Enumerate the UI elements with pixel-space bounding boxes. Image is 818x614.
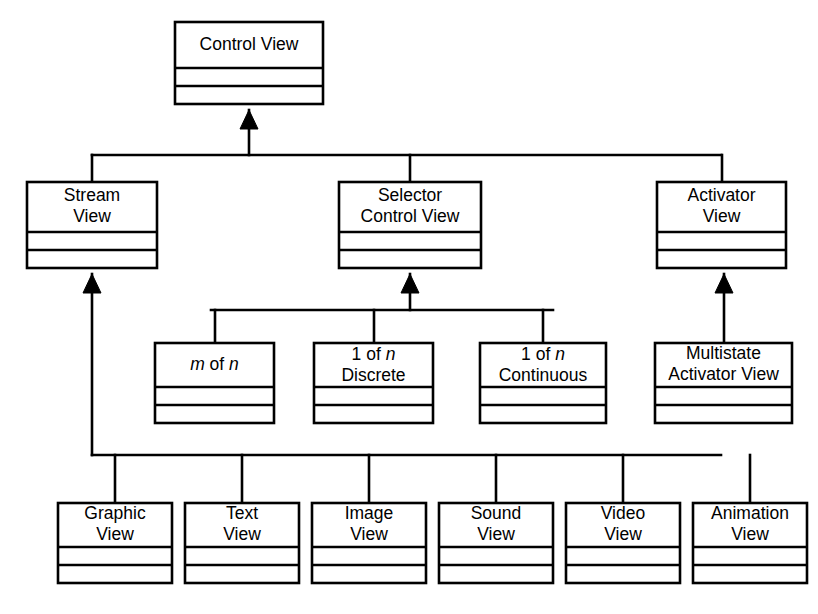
class-name-line: Image — [345, 503, 394, 523]
class-name-line: View — [731, 524, 769, 544]
class-name-line: 1 of n — [521, 343, 565, 363]
node-layer: Control ViewStreamViewSelectorControl Vi… — [27, 22, 807, 583]
class-name-line: View — [350, 524, 388, 544]
class-name-line: Graphic — [84, 503, 146, 523]
class-box-animation-view[interactable]: AnimationView — [693, 503, 807, 583]
class-name-line: Animation — [711, 503, 789, 523]
diagram-canvas: Control ViewStreamViewSelectorControl Vi… — [0, 0, 818, 614]
class-box-sound-view[interactable]: SoundView — [439, 503, 553, 583]
class-box-multistate-activator-view[interactable]: MultistateActivator View — [655, 343, 792, 423]
class-name-line: Control View — [361, 206, 460, 226]
class-name-line: View — [703, 206, 741, 226]
class-name-line: m of n — [190, 354, 239, 374]
class-name-line: View — [73, 206, 111, 226]
class-name-line: Sound — [471, 503, 522, 523]
class-name-line: View — [604, 524, 642, 544]
class-box-video-view[interactable]: VideoView — [566, 503, 680, 583]
class-name-line: Activator — [687, 185, 755, 205]
class-name-line: Discrete — [341, 364, 405, 384]
class-name-line: Multistate — [686, 343, 761, 363]
class-name-line: Stream — [64, 185, 120, 205]
class-name-line: Video — [601, 503, 645, 523]
class-name-line: Control View — [200, 34, 299, 54]
class-name-line: Continuous — [499, 364, 588, 384]
class-name-line: View — [96, 524, 134, 544]
class-box-text-view[interactable]: TextView — [185, 503, 299, 583]
class-box-image-view[interactable]: ImageView — [312, 503, 426, 583]
class-box-control-view[interactable]: Control View — [175, 22, 323, 104]
class-box-selector-control-view[interactable]: SelectorControl View — [339, 182, 481, 268]
class-name-line: View — [223, 524, 261, 544]
class-box-activator-view[interactable]: ActivatorView — [657, 182, 786, 268]
connector-layer — [83, 110, 750, 503]
class-box-one-of-n-continuous[interactable]: 1 of nContinuous — [480, 343, 606, 423]
class-hierarchy-diagram: Control ViewStreamViewSelectorControl Vi… — [0, 0, 818, 614]
class-box-m-of-n[interactable]: m of n — [155, 343, 274, 423]
class-name-line: View — [477, 524, 515, 544]
class-box-stream-view[interactable]: StreamView — [27, 182, 157, 268]
class-name-line: Text — [226, 503, 258, 523]
class-box-one-of-n-discrete[interactable]: 1 of nDiscrete — [314, 343, 433, 423]
class-name-line: Activator View — [668, 364, 779, 384]
class-box-graphic-view[interactable]: GraphicView — [58, 503, 172, 583]
class-name-line: Selector — [378, 185, 442, 205]
class-name-line: 1 of n — [352, 343, 396, 363]
